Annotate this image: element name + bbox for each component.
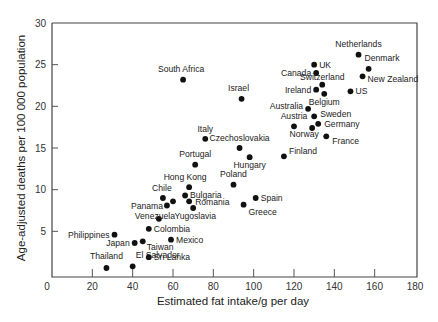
- point-label: Mexico: [176, 235, 203, 245]
- scatter-chart: 020406080100120140160180 51015202530 Net…: [0, 0, 438, 322]
- x-tick-label: 140: [326, 281, 343, 292]
- point-marker: [239, 96, 245, 102]
- x-tick-label: 60: [167, 281, 179, 292]
- x-tick-label: 40: [127, 281, 139, 292]
- point-marker: [170, 198, 176, 204]
- point-marker: [356, 52, 362, 58]
- point-label: Thailand: [90, 251, 123, 261]
- x-tick-label: 180: [407, 281, 424, 292]
- x-tick-label: 80: [208, 281, 220, 292]
- point-marker: [180, 77, 186, 83]
- x-tick-label: 20: [87, 281, 99, 292]
- point-label: Portugal: [179, 149, 211, 159]
- y-tick-label: 20: [35, 101, 47, 112]
- point-marker: [132, 240, 138, 246]
- point-marker: [315, 121, 321, 127]
- x-tick-label: 100: [245, 281, 262, 292]
- y-tick-label: 30: [35, 18, 47, 29]
- point-label: Poland: [220, 169, 247, 179]
- point-marker: [186, 198, 192, 204]
- point-marker: [104, 265, 110, 271]
- point-marker: [313, 87, 319, 93]
- point-marker: [146, 226, 152, 232]
- point-label: Australia: [270, 101, 304, 111]
- point-label: Czechoslovakia: [209, 133, 269, 143]
- point-marker: [311, 62, 317, 68]
- point-label: Sweden: [320, 109, 351, 119]
- point-label: Austria: [281, 111, 308, 121]
- point-marker: [182, 193, 188, 199]
- point-label: UK: [319, 60, 331, 70]
- point-marker: [130, 263, 136, 269]
- point-marker: [253, 195, 259, 201]
- data-point: [170, 198, 176, 204]
- data-point: New Zealand: [360, 73, 419, 84]
- y-tick-label: 10: [35, 184, 47, 195]
- point-marker: [323, 133, 329, 139]
- point-label: Norway: [290, 129, 320, 139]
- data-point: Venezuela: [135, 211, 175, 222]
- y-tick-label: 5: [40, 226, 46, 237]
- point-label: Venezuela: [135, 211, 175, 221]
- point-label: Philippines: [68, 230, 110, 240]
- point-label: Panama: [131, 201, 163, 211]
- point-label: Romania: [195, 197, 230, 207]
- point-label: Denmark: [365, 53, 401, 63]
- point-label: Hong Kong: [164, 172, 207, 182]
- point-marker: [112, 232, 118, 238]
- point-marker: [164, 203, 170, 209]
- y-axis-title: Age-adjusted deaths per 100 000 populati…: [15, 35, 27, 261]
- point-label: Ireland: [285, 85, 311, 95]
- point-marker: [366, 66, 372, 72]
- point-label: Japan: [106, 238, 130, 248]
- point-label: Finland: [289, 146, 317, 156]
- point-label: New Zealand: [368, 74, 419, 84]
- point-marker: [348, 88, 354, 94]
- point-marker: [311, 113, 317, 119]
- point-marker: [192, 162, 198, 168]
- point-label: El Salvador: [136, 250, 180, 260]
- point-label: Spain: [261, 193, 283, 203]
- point-label: Belgium: [309, 97, 340, 107]
- point-label: Yugoslavia: [174, 211, 216, 221]
- point-label: Netherlands: [335, 39, 381, 49]
- point-label: Switzerland: [300, 72, 345, 82]
- x-tick-label: 120: [286, 281, 303, 292]
- point-label: Colombia: [154, 224, 191, 234]
- point-label: Greece: [249, 207, 277, 217]
- point-marker: [202, 136, 208, 142]
- point-marker: [237, 145, 243, 151]
- y-tick-label: 15: [35, 143, 47, 154]
- point-marker: [140, 238, 146, 244]
- point-marker: [281, 153, 287, 159]
- point-label: South Africa: [158, 64, 205, 74]
- point-marker: [319, 82, 325, 88]
- point-marker: [231, 182, 237, 188]
- y-tick-label: 25: [35, 59, 47, 70]
- point-marker: [360, 73, 366, 79]
- point-label: Israel: [228, 83, 249, 93]
- point-label: France: [332, 136, 359, 146]
- point-marker: [241, 202, 247, 208]
- point-label: Chile: [152, 183, 172, 193]
- x-tick-label: 160: [366, 281, 383, 292]
- point-label: Germany: [324, 119, 360, 129]
- x-axis-title: Estimated fat intake/g per day: [157, 295, 309, 307]
- point-label: US: [355, 86, 367, 96]
- x-tick-label: 0: [44, 281, 50, 292]
